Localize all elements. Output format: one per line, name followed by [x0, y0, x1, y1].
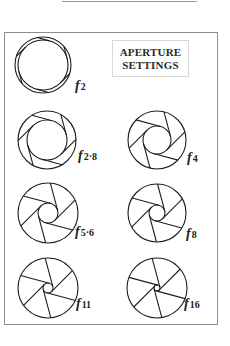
aperture-blade-edge [159, 269, 180, 290]
aperture-icon-f2 [15, 37, 71, 93]
aperture-blade-edge [38, 216, 45, 243]
f-prefix: f [75, 78, 80, 93]
aperture-blade-edge [163, 199, 183, 219]
f-prefix: f [186, 226, 191, 241]
aperture-icon-f2-8 [18, 111, 76, 169]
aperture-blade-edge [45, 223, 72, 230]
aperture-blade-edge [134, 286, 155, 307]
f-stop-label: f2·8 [78, 146, 97, 164]
f-stop-label: f11 [76, 294, 91, 312]
aperture-blade-edge [24, 284, 45, 305]
aperture-blade-edge [155, 221, 182, 228]
aperture-blade-edge [21, 276, 50, 284]
aperture-icon-f8 [128, 184, 186, 242]
f-number: 4 [193, 153, 198, 164]
f-stop-label: f16 [184, 294, 200, 312]
f-stop-label: f5·6 [75, 222, 94, 240]
f-number: 5·6 [81, 227, 94, 238]
f-number: 2 [81, 81, 86, 92]
aperture-blade-edge [47, 293, 76, 301]
f-number: 2·8 [84, 151, 97, 162]
aperture-blade-edge [143, 144, 150, 169]
f-number: 16 [190, 299, 200, 310]
aperture-blade-edge [50, 183, 57, 210]
f-prefix: f [184, 296, 189, 311]
aperture-blade-edge [23, 196, 50, 203]
aperture-blade-edge [164, 112, 171, 137]
f-prefix: f [187, 150, 192, 165]
f-prefix: f [76, 296, 81, 311]
aperture-blade-edge [52, 271, 73, 292]
f-prefix: f [75, 224, 80, 239]
aperture-blade-edge [32, 115, 52, 120]
aperture-blade-edge [136, 120, 161, 127]
aperture-blade-edge [153, 154, 178, 161]
aperture-outer-ring [128, 184, 186, 242]
aperture-blade-edge [154, 289, 162, 318]
f-number: 11 [82, 299, 91, 310]
aperture-outer-ring [127, 258, 187, 318]
aperture-icon-f5-6 [18, 183, 78, 243]
aperture-blade-edge [149, 215, 156, 242]
aperture-blade-edge [152, 258, 160, 287]
aperture-outer-ring [18, 183, 78, 243]
aperture-blade-edge [158, 184, 165, 211]
aperture-blade-edge [132, 207, 152, 227]
aperture-blade-edge [42, 159, 62, 164]
f-number: 8 [192, 229, 197, 240]
aperture-icon-f16 [127, 258, 187, 318]
aperture-icon-f4 [128, 111, 186, 169]
aperture-blade-edge [129, 277, 158, 285]
f-stop-label: f4 [187, 148, 198, 166]
f-prefix: f [78, 148, 83, 163]
aperture-blade-edge [132, 198, 159, 205]
aperture-blade-edge [156, 291, 185, 299]
f-stop-label: f8 [186, 224, 197, 242]
aperture-outer-ring [15, 37, 71, 93]
aperture-icon-f11 [18, 258, 78, 318]
f-stop-label: f2 [75, 76, 86, 94]
